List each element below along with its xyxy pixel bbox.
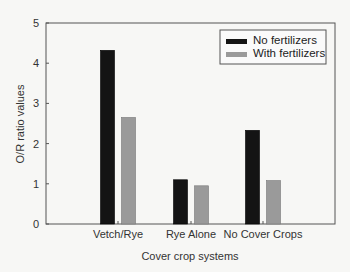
y-tick-label: 1 (33, 178, 39, 190)
y-tick-label: 2 (33, 138, 39, 150)
bars (101, 50, 281, 224)
y-tick-label: 3 (33, 97, 39, 109)
bar-no-fertilizers (174, 180, 188, 224)
bar-no-fertilizers (101, 50, 115, 224)
legend-swatch-with-fertilizers (226, 52, 247, 57)
y-tick-label: 5 (33, 17, 39, 29)
bar-chart: 012345 Vetch/RyeRye AloneNo Cover Crops … (0, 0, 350, 272)
y-tick-label: 0 (33, 218, 39, 230)
y-axis-ticks: 012345 (33, 17, 49, 230)
legend-label-with-fertilizers: With fertilizers (253, 47, 325, 59)
x-tick-label: Rye Alone (166, 228, 216, 240)
legend-swatch-no-fertilizers (226, 39, 247, 44)
legend-label-no-fertilizers: No fertilizers (253, 34, 317, 46)
bar-with-fertilizers (122, 117, 136, 224)
bar-no-fertilizers (246, 130, 260, 224)
y-tick-label: 4 (33, 57, 39, 69)
x-tick-label: Vetch/Rye (93, 228, 143, 240)
y-axis-title: O/R ratio values (14, 84, 26, 163)
bar-with-fertilizers (195, 186, 209, 224)
x-tick-label: No Cover Crops (224, 228, 303, 240)
bar-with-fertilizers (267, 181, 281, 224)
legend: No fertilizers With fertilizers (220, 30, 326, 64)
x-axis-title: Cover crop systems (141, 250, 239, 262)
